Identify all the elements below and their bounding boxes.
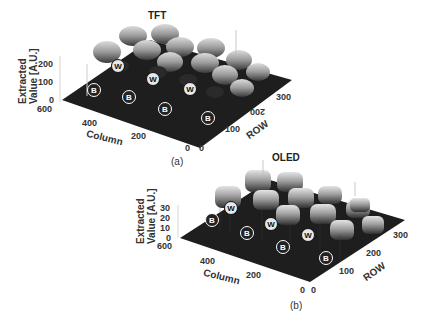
- marker-white: W: [264, 217, 278, 231]
- figure-b-ztick: 20: [160, 213, 170, 223]
- marker-black: B: [240, 226, 254, 240]
- marker-white: W: [224, 201, 238, 215]
- figure-b-column-tick: 0: [300, 285, 305, 295]
- figure-b-row-tick: 200: [366, 248, 381, 258]
- figure-b-oled: OLED: [0, 0, 423, 324]
- marker-black: B: [205, 213, 219, 227]
- marker-black: B: [276, 240, 290, 254]
- figure-b-column-tick: 200: [246, 270, 261, 280]
- figure-b-column-tick: 600: [157, 241, 172, 251]
- figure-b-row-tick: 100: [339, 266, 354, 276]
- figure-b-zlabel-line2: Value [A.U.]: [146, 188, 157, 244]
- figure-b-ztick: 10: [160, 223, 170, 233]
- figure-b-caption: (b): [290, 300, 302, 311]
- figure-b-row-tick: 300: [393, 230, 408, 240]
- figure-b-zlabel-line1: Extracted: [135, 198, 146, 244]
- figure-b-column-tick: 400: [200, 256, 215, 266]
- figure-b-row-tick: 0: [311, 285, 316, 295]
- marker-black: B: [319, 251, 333, 265]
- marker-white: W: [301, 228, 315, 242]
- figure-b-ztick: 30: [160, 203, 170, 213]
